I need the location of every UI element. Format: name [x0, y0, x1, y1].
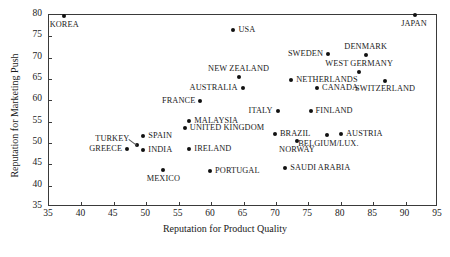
data-point: [326, 52, 330, 56]
data-point-label: PORTUGAL: [215, 167, 260, 175]
x-tick: [179, 202, 180, 206]
x-tick: [276, 202, 277, 206]
data-point-label: INDIA: [148, 146, 172, 154]
data-point: [383, 79, 387, 83]
data-point: [339, 132, 343, 136]
x-tick: [244, 202, 245, 206]
data-point: [141, 134, 145, 138]
data-point-label: UNITED KINGDOM: [190, 124, 264, 132]
data-point: [241, 86, 245, 90]
y-tick: [48, 186, 52, 187]
y-tick: [48, 100, 52, 101]
x-tick-label: 80: [335, 209, 345, 219]
data-point: [183, 126, 187, 130]
data-point: [273, 132, 277, 136]
data-point-label: JAPAN: [401, 20, 427, 28]
x-tick-label: 55: [173, 209, 183, 219]
x-tick: [81, 202, 82, 206]
data-point-label: AUSTRALIA: [190, 84, 238, 92]
y-tick: [48, 58, 52, 59]
data-point-label: DENMARK: [344, 43, 387, 51]
x-tick-label: 70: [270, 209, 280, 219]
data-point: [315, 86, 319, 90]
y-tick-label: 75: [16, 31, 42, 41]
y-tick-label: 65: [16, 73, 42, 83]
data-point-label: NORWAY: [279, 146, 315, 154]
data-point-label: CANADA: [322, 84, 358, 92]
data-point: [357, 70, 361, 74]
data-point-label: SWEDEN: [288, 50, 323, 58]
y-tick: [48, 79, 52, 80]
data-point-label: KOREA: [50, 21, 79, 29]
data-point: [325, 133, 329, 137]
y-tick-label: 80: [16, 9, 42, 19]
y-tick: [48, 143, 52, 144]
data-point: [161, 168, 165, 172]
x-tick: [146, 202, 147, 206]
data-point: [237, 75, 241, 79]
data-point-label: TURKEY: [95, 135, 129, 143]
x-tick: [373, 202, 374, 206]
x-tick: [406, 202, 407, 206]
x-tick: [341, 202, 342, 206]
data-point-label: WEST GERMANY: [325, 60, 393, 68]
x-tick: [211, 202, 212, 206]
x-tick-label: 85: [367, 209, 377, 219]
y-tick: [48, 36, 52, 37]
y-tick: [48, 164, 52, 165]
x-tick-label: 90: [400, 209, 410, 219]
x-tick-label: 65: [238, 209, 248, 219]
data-point: [141, 148, 145, 152]
y-tick: [48, 122, 52, 123]
x-tick-label: 75: [303, 209, 313, 219]
x-tick-label: 60: [205, 209, 215, 219]
data-point: [231, 28, 235, 32]
data-point-label: AUSTRIA: [346, 130, 383, 138]
data-point-label: SWITZERLAND: [355, 85, 415, 93]
y-tick-label: 40: [16, 180, 42, 190]
data-point: [289, 78, 293, 82]
data-point-label: FRANCE: [162, 97, 195, 105]
x-tick-label: 50: [141, 209, 151, 219]
x-tick: [114, 202, 115, 206]
y-tick-label: 55: [16, 116, 42, 126]
data-point-label: NEW ZEALAND: [208, 65, 269, 73]
y-axis-title: Reputation for Marketing Push: [9, 36, 20, 196]
data-point: [413, 13, 417, 17]
data-point: [208, 169, 212, 173]
data-point-label: IRELAND: [194, 145, 231, 153]
data-point: [187, 147, 191, 151]
data-point-label: FINLAND: [316, 107, 353, 115]
data-point: [364, 53, 368, 57]
y-tick-label: 50: [16, 137, 42, 147]
data-point-label: BRAZIL: [280, 130, 311, 138]
y-tick-label: 70: [16, 52, 42, 62]
data-point: [309, 109, 313, 113]
data-point: [283, 166, 287, 170]
x-tick: [308, 202, 309, 206]
x-axis-title: Reputation for Product Quality: [0, 223, 450, 234]
data-point-label: SPAIN: [148, 132, 172, 140]
data-point-label: SAUDI ARABIA: [290, 163, 350, 171]
data-point: [198, 99, 202, 103]
y-tick-label: 35: [16, 201, 42, 211]
data-point-label: GREECE: [89, 145, 122, 153]
data-point: [276, 109, 280, 113]
data-point: [62, 14, 66, 18]
x-tick-label: 95: [432, 209, 442, 219]
scatter-chart: 35404550556065707580859095 3540455055606…: [0, 0, 450, 257]
data-point-label: USA: [238, 26, 255, 34]
data-point: [125, 147, 129, 151]
y-tick-label: 60: [16, 95, 42, 105]
x-tick-label: 45: [108, 209, 118, 219]
x-tick-label: 40: [76, 209, 86, 219]
x-tick-label: 35: [43, 209, 53, 219]
data-point-label: MEXICO: [147, 175, 180, 183]
data-point-label: ITALY: [249, 107, 273, 115]
y-tick-label: 45: [16, 159, 42, 169]
data-point: [295, 139, 299, 143]
